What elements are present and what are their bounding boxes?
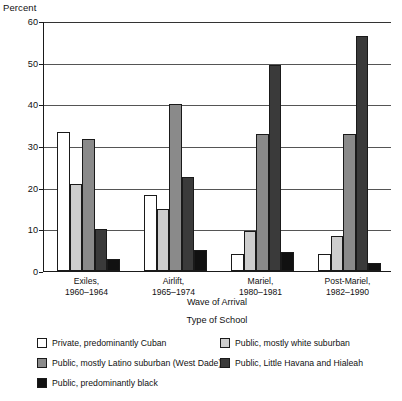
y-tick-mark-20 bbox=[39, 189, 43, 190]
y-tick-label-0: 0 bbox=[8, 267, 38, 277]
bar bbox=[57, 132, 70, 271]
y-tick-mark-0 bbox=[39, 272, 43, 273]
y-tick-mark-10 bbox=[39, 230, 43, 231]
y-tick-label-20: 20 bbox=[8, 184, 38, 194]
y-tick-mark-60 bbox=[39, 22, 43, 23]
legend-label: Private, predominantly Cuban bbox=[52, 338, 166, 348]
bar bbox=[144, 195, 157, 271]
legend-title: Type of School bbox=[43, 315, 391, 325]
bar bbox=[231, 254, 244, 271]
bar bbox=[244, 231, 257, 271]
bar-group bbox=[131, 22, 218, 271]
bar bbox=[107, 259, 120, 271]
bar bbox=[343, 134, 356, 272]
category-line-1: Airlift, bbox=[163, 276, 184, 286]
bar bbox=[356, 36, 369, 271]
x-axis-title: Wave of Arrival bbox=[43, 297, 391, 307]
legend-swatch-icon bbox=[37, 358, 47, 368]
category-line-1: Mariel, bbox=[248, 276, 274, 286]
y-tick-mark-50 bbox=[39, 64, 43, 65]
bar bbox=[256, 134, 269, 272]
bar bbox=[368, 263, 381, 271]
y-tick-label-30: 30 bbox=[8, 142, 38, 152]
y-tick-mark-30 bbox=[39, 147, 43, 148]
y-axis-title: Percent bbox=[3, 2, 36, 13]
plot-area bbox=[43, 22, 391, 272]
bar bbox=[194, 250, 207, 271]
bar-group bbox=[218, 22, 305, 271]
legend-swatch-icon bbox=[220, 338, 230, 348]
legend-item[interactable]: Public, predominantly black bbox=[37, 378, 158, 388]
bar bbox=[70, 184, 83, 272]
bar bbox=[182, 177, 195, 271]
bar bbox=[281, 252, 294, 271]
bar-chart: Percent 0102030405060 Exiles,1960–1964Ai… bbox=[0, 0, 402, 401]
bar bbox=[157, 209, 170, 272]
x-category-label: Post-Mariel,1982–1990 bbox=[304, 276, 391, 298]
category-line-1: Post-Mariel, bbox=[325, 276, 371, 286]
x-category-label: Airlift,1965–1974 bbox=[130, 276, 217, 298]
legend-label: Public, Little Havana and Hialeah bbox=[235, 358, 363, 368]
legend-swatch-icon bbox=[37, 338, 47, 348]
y-tick-mark-40 bbox=[39, 105, 43, 106]
bar bbox=[95, 229, 108, 271]
y-tick-label-10: 10 bbox=[8, 225, 38, 235]
legend-item[interactable]: Private, predominantly Cuban bbox=[37, 338, 166, 348]
y-tick-label-50: 50 bbox=[8, 59, 38, 69]
x-category-label: Mariel,1980–1981 bbox=[217, 276, 304, 298]
y-tick-label-60: 60 bbox=[8, 17, 38, 27]
bar-group bbox=[305, 22, 392, 271]
legend-label: Public, mostly white suburban bbox=[235, 338, 350, 348]
category-line-1: Exiles, bbox=[74, 276, 99, 286]
legend-swatch-icon bbox=[220, 358, 230, 368]
legend-label: Public, predominantly black bbox=[52, 378, 158, 388]
bar bbox=[331, 236, 344, 271]
bar bbox=[318, 254, 331, 271]
legend-item[interactable]: Public, mostly white suburban bbox=[220, 338, 350, 348]
legend-swatch-icon bbox=[37, 378, 47, 388]
legend-item[interactable]: Public, Little Havana and Hialeah bbox=[220, 358, 363, 368]
legend-item[interactable]: Public, mostly Latino suburban (West Dad… bbox=[37, 358, 221, 368]
bar bbox=[269, 65, 282, 271]
y-tick-label-40: 40 bbox=[8, 100, 38, 110]
bar-group bbox=[44, 22, 131, 271]
legend-label: Public, mostly Latino suburban (West Dad… bbox=[52, 358, 221, 368]
bar bbox=[82, 139, 95, 271]
x-category-label: Exiles,1960–1964 bbox=[43, 276, 130, 298]
bar bbox=[169, 104, 182, 271]
legend: Private, predominantly CubanPublic, most… bbox=[0, 336, 402, 401]
